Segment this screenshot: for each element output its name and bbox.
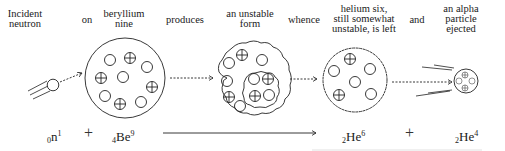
equation-beryllium: 4Be9 xyxy=(112,127,134,148)
equation-helium-four: 2He4 xyxy=(455,127,478,148)
arrow-dotted-1 xyxy=(60,73,82,82)
beryllium-nucleus-icon xyxy=(85,38,165,118)
equation-plus-2: + xyxy=(405,124,414,142)
incident-neutron-icon xyxy=(28,79,59,99)
alpha-particle-icon xyxy=(416,65,478,96)
helium-six-nucleus-icon xyxy=(323,48,387,112)
equation-helium-six: 2He6 xyxy=(342,127,365,148)
equation-neutron: 0n1 xyxy=(47,127,62,148)
reaction-diagram xyxy=(0,0,505,151)
unstable-nucleus-icon xyxy=(218,41,291,115)
equation-plus-1: + xyxy=(84,124,93,142)
